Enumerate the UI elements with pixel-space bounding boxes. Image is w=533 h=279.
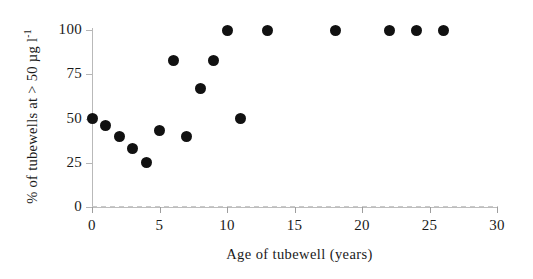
x-tick	[497, 207, 498, 213]
data-point	[411, 25, 422, 36]
data-point	[330, 25, 341, 36]
data-point	[154, 125, 165, 136]
data-point	[114, 131, 125, 142]
x-tick-label: 10	[207, 218, 247, 233]
x-tick-label: 15	[275, 218, 315, 233]
x-axis-title-text: Age of tubewell (years)	[160, 246, 373, 262]
x-tick-label: 0	[72, 218, 112, 233]
x-tick	[92, 207, 93, 213]
x-tick	[227, 207, 228, 213]
data-point	[262, 25, 273, 36]
data-point	[235, 113, 246, 124]
x-tick	[160, 207, 161, 213]
data-point	[438, 25, 449, 36]
data-point	[127, 143, 138, 154]
scatter-chart-figure: 0255075100 051015202530 % of tubewells a…	[0, 0, 533, 279]
x-tick	[295, 207, 296, 213]
y-tick-label: 25	[36, 155, 82, 170]
y-tick-label: 75	[36, 66, 82, 81]
y-tick-label: 100	[36, 22, 82, 37]
data-point	[168, 55, 179, 66]
data-point	[141, 157, 152, 168]
y-tick-label: 50	[36, 111, 82, 126]
x-tick-label: 30	[477, 218, 517, 233]
y-axis-title-text: % of tubewells at > 50 µg l	[24, 38, 40, 204]
plot-area	[92, 30, 497, 207]
data-point	[384, 25, 395, 36]
data-point	[181, 131, 192, 142]
data-point	[100, 120, 111, 131]
y-axis-title: % of tubewells at > 50 µg l-1	[24, 7, 41, 227]
x-tick-label: 5	[140, 218, 180, 233]
data-point	[87, 113, 98, 124]
y-tick-label: 0	[36, 199, 82, 214]
data-point	[208, 55, 219, 66]
x-tick-label: 25	[410, 218, 450, 233]
data-point	[222, 25, 233, 36]
y-axis-title-superscript: -1	[23, 29, 33, 38]
x-tick	[430, 207, 431, 213]
x-tick	[362, 207, 363, 213]
data-point	[195, 83, 206, 94]
x-tick-label: 20	[342, 218, 382, 233]
x-axis-title: Age of tubewell (years)	[0, 246, 533, 263]
